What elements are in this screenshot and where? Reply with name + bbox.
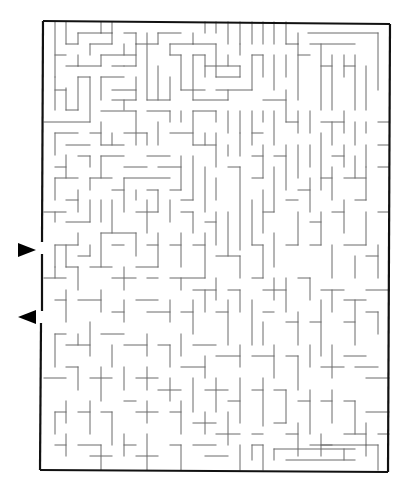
exit-arrow-icon [18, 310, 36, 324]
border-segment [40, 470, 388, 472]
maze-outer-border [40, 21, 390, 472]
entrance-arrow-icon [18, 243, 36, 257]
border-segment [42, 21, 43, 242]
border-segment [40, 323, 41, 470]
border-segment [43, 21, 390, 24]
maze-board [0, 0, 410, 493]
border-segment [388, 24, 390, 472]
maze-walls [44, 22, 389, 470]
